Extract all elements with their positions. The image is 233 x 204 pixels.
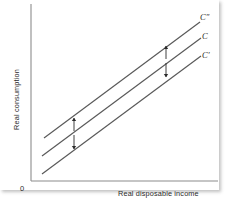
y-axis-label: Real consumption <box>12 52 21 148</box>
curve-label-c-prime: C′ <box>202 50 210 60</box>
origin-label: 0 <box>20 184 24 193</box>
curve-group <box>42 22 201 174</box>
axis-lines <box>31 4 218 181</box>
curve-label-c-double-prime: C″ <box>200 12 209 22</box>
consumption-function-figure: C″ C C′ Real consumption Real disposable… <box>0 0 233 204</box>
curve-c-prime <box>42 56 201 174</box>
chart-canvas <box>0 0 233 204</box>
x-axis-label: Real disposable income <box>118 189 199 198</box>
curve-label-c: C <box>202 31 208 41</box>
curve-c <box>42 38 201 156</box>
curve-c-double-prime <box>44 22 200 138</box>
